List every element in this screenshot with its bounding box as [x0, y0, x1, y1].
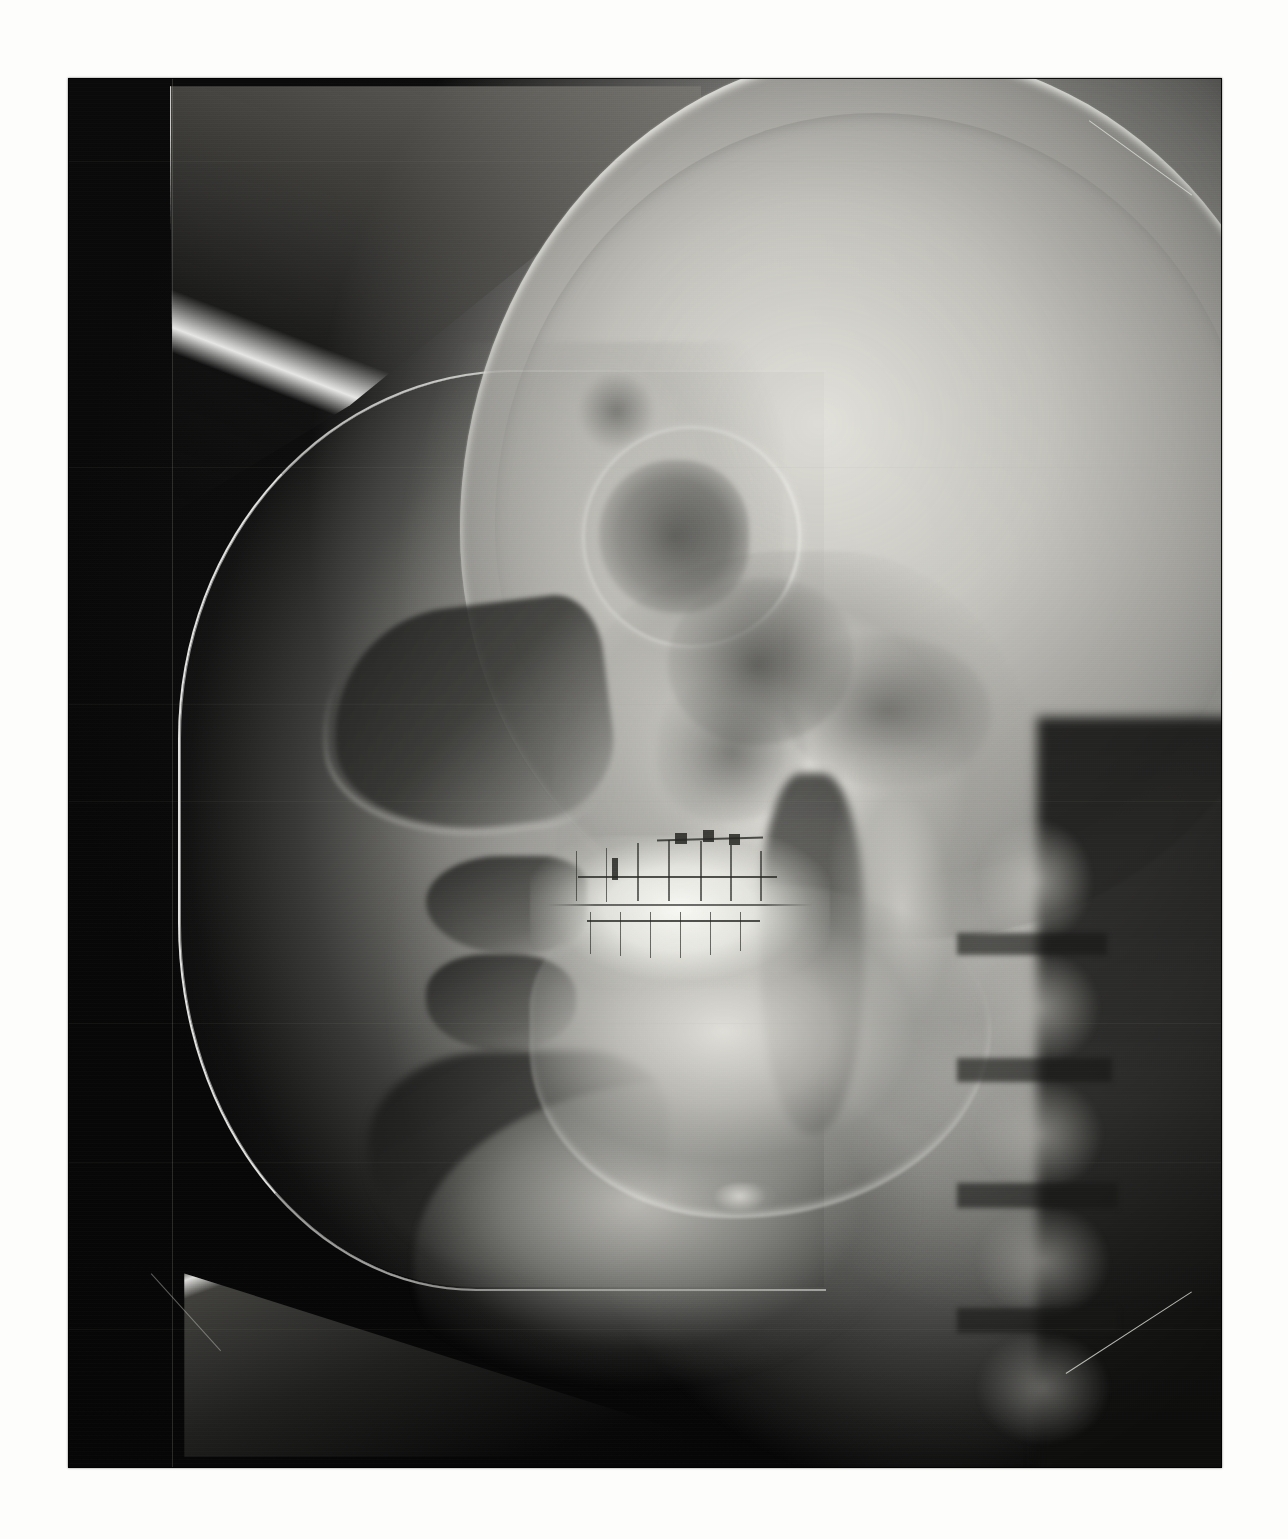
tooth-separation — [730, 845, 732, 901]
orthodontic-bracket — [612, 858, 619, 880]
orthodontic-bracket — [729, 834, 739, 845]
orthodontic-bracket — [703, 830, 715, 843]
orthodontic-bracket — [675, 833, 687, 844]
tooth-separation — [637, 843, 639, 901]
radiograph-view-label: lateral cephalometric — [0, 0, 1, 1]
tooth-separation — [590, 912, 592, 954]
tooth-separation — [650, 912, 652, 958]
tooth-separation — [700, 841, 702, 901]
intervertebral-space — [957, 1183, 1119, 1208]
occlusal-plane — [547, 904, 812, 906]
tooth-separation — [668, 840, 670, 901]
intervertebral-space — [957, 1058, 1113, 1082]
intervertebral-space — [957, 1308, 1119, 1333]
tooth-separation — [740, 912, 742, 951]
cervical-spine — [945, 801, 1141, 1468]
orthodontic-wire — [587, 920, 760, 922]
radiograph-modality-label: X-ray — [0, 0, 1, 1]
page-background: lateral cephalometric human skull in pro… — [0, 0, 1288, 1539]
intervertebral-space — [957, 933, 1107, 955]
radiograph-subject-label: human skull in profile, facing left — [0, 0, 1, 1]
hyoid-bone — [714, 1183, 777, 1216]
tooth-separation — [710, 912, 712, 955]
orthodontic-wire — [578, 876, 776, 878]
tooth-separation — [680, 912, 682, 958]
radiograph-film — [68, 78, 1222, 1468]
tooth-separation — [620, 912, 622, 956]
